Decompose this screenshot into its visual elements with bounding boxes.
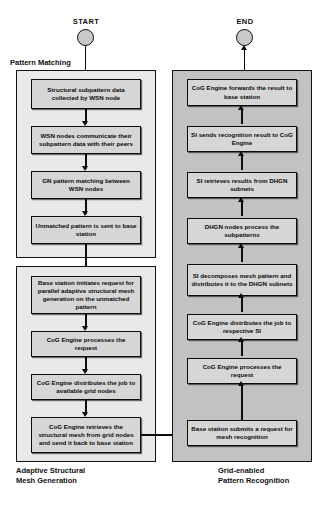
connector-r4-r3 [241,200,243,216]
arrowhead-r6-r5 [238,293,244,298]
arrowhead-box-to-end [241,45,247,50]
node-cog-engine-distributes-grid-nodes: CoG Engine distributes the job to availa… [31,374,141,400]
arrowhead-r3-r2 [238,151,244,156]
connector-r3-r2 [241,154,243,170]
arrowhead-r2-r1 [238,105,244,110]
node-cog-engine-retrieves-mesh: CoG Engine retrieves the structural mesh… [31,417,141,453]
arrowhead-r5-r4 [238,243,244,248]
node-gn-pattern-matching: GN pattern matching between WSN nodes [31,171,141,199]
node-unmatched-pattern-sent: Unmatched pattern is sent to base statio… [31,216,141,244]
node-wsn-nodes-communicate: WSN nodes communicate their subpattern d… [31,126,141,154]
node-si-retrieves-results: SI retrieves results from DHGN subnets [187,172,297,198]
node-si-sends-recognition-result: SI sends recognition result to CoG Engin… [187,126,297,152]
node-cog-engine-processes-request-left: CoG Engine processes the request [31,331,141,357]
connector-r8-r7 [241,384,243,420]
arrowhead-r8-r7 [238,381,244,386]
connector-r2-r1 [241,108,243,124]
node-si-decomposes-mesh-pattern: SI decomposes mesh pattern and distribut… [187,264,297,296]
node-cog-engine-forwards-result: CoG Engine forwards the result to base s… [187,79,297,106]
arrowhead-r7-r6 [238,337,244,342]
end-terminator-circle [236,29,253,46]
group-label-grid-enabled-pattern-recognition: Grid-enabled Pattern Recognition [218,466,289,486]
connector-r5-r4 [241,246,243,262]
arrowhead-r4-r3 [238,197,244,202]
node-dhgn-nodes-process: DHGN nodes process the subpatterns [187,218,297,244]
group-label-pattern-matching: Pattern Matching [10,58,71,68]
connector-r7-r6 [241,340,243,356]
node-structural-subpattern-data: Structural subpattern data collected by … [31,79,141,109]
end-label: END [215,17,275,26]
flowchart-diagram: START END Pattern Matching Structural su… [0,0,329,520]
group-label-adaptive-structural-mesh-generation: Adaptive Structural Mesh Generation [16,466,85,486]
start-terminator-circle [77,29,94,46]
node-base-station-submits-request: Base station submits a request for mesh … [187,420,297,446]
node-base-station-initiates-request: Base station initiates request for paral… [31,276,141,314]
connector-r6-r5 [241,296,243,312]
start-label: START [56,17,116,26]
